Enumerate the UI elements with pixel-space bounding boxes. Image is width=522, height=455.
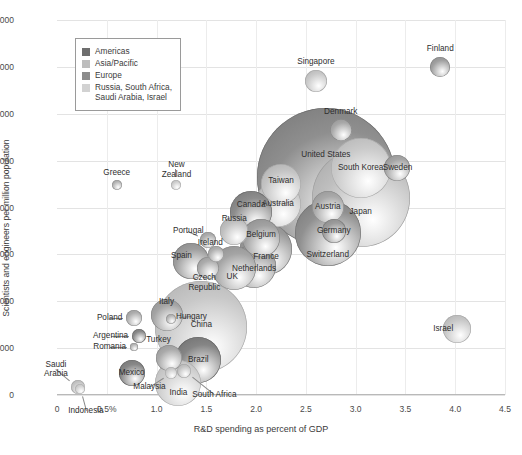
legend-label: Americas: [95, 46, 130, 57]
bubble-singapore[interactable]: [305, 70, 327, 92]
legend-swatch-icon: [82, 72, 90, 80]
label-leader-line: [110, 347, 127, 348]
bubble-chart: SingaporeFinlandDenmarkUnited StatesSout…: [0, 0, 522, 455]
legend-item-asia-pacific[interactable]: Asia/Pacific: [82, 58, 172, 69]
x-axis-title: R&D spending as percent of GDP: [0, 424, 522, 434]
legend-label: Europe: [95, 70, 122, 81]
x-tick-label: 3.0: [350, 404, 362, 414]
bubble-argentina[interactable]: [132, 329, 146, 343]
legend-swatch-icon: [82, 48, 90, 56]
bubble-taiwan[interactable]: [261, 164, 301, 204]
bubble-label-singapore: Singapore: [297, 57, 334, 67]
x-tick-label: 4.5: [499, 404, 511, 414]
bubble-hungary[interactable]: [166, 314, 176, 324]
y-tick-label: 7,000: [0, 62, 14, 72]
x-tick-label: 4.0: [449, 404, 461, 414]
bubble-romania[interactable]: [130, 343, 138, 351]
gridline-vertical: [505, 20, 506, 395]
x-tick-label: 1.5: [200, 404, 212, 414]
gridline-horizontal: [57, 20, 505, 21]
legend-swatch-icon: [82, 60, 90, 68]
legend-label: Asia/Pacific: [95, 58, 138, 69]
bubble-south-korea[interactable]: [331, 138, 391, 198]
bubble-austria[interactable]: [312, 191, 344, 223]
legend: AmericasAsia/PacificEuropeRussia, South …: [75, 38, 181, 111]
legend-item-russia-south-africa-saudi-arabia-israel[interactable]: Russia, South Africa, Saudi Arabia, Isra…: [82, 82, 172, 103]
bubble-russia[interactable]: [220, 217, 248, 245]
x-tick-label: 3.5: [400, 404, 412, 414]
x-tick-label: 0.5%: [97, 404, 116, 414]
bubble-south-africa[interactable]: [177, 364, 191, 378]
bubble-mexico[interactable]: [119, 360, 145, 386]
x-tick-label: 0: [55, 404, 60, 414]
x-tick-label: 2.5: [300, 404, 312, 414]
label-leader-line: [55, 369, 70, 381]
label-leader-line: [111, 336, 129, 337]
gridline-horizontal: [57, 395, 505, 396]
bubble-denmark[interactable]: [330, 119, 352, 141]
legend-item-americas[interactable]: Americas: [82, 46, 172, 57]
bubble-belgium[interactable]: [242, 219, 280, 257]
legend-swatch-icon: [82, 84, 90, 92]
x-tick-label: 1.0: [151, 404, 163, 414]
x-tick-label: 2.0: [250, 404, 262, 414]
gridline-horizontal: [57, 348, 505, 349]
bubble-israel[interactable]: [443, 315, 471, 343]
bubble-sweden[interactable]: [384, 155, 410, 181]
y-tick-label: 0: [0, 390, 14, 400]
x-axis-line: [57, 394, 505, 395]
y-tick-label: 8,000: [0, 15, 14, 25]
bubble-label-finland: Finland: [427, 44, 454, 54]
label-leader-line: [188, 231, 198, 236]
bubble-new-zealand[interactable]: [171, 180, 181, 190]
bubble-malaysia[interactable]: [165, 367, 177, 379]
legend-item-europe[interactable]: Europe: [82, 70, 172, 81]
bubble-germany[interactable]: [322, 219, 346, 243]
gridline-horizontal: [57, 301, 505, 302]
gridline-horizontal: [57, 114, 505, 115]
bubble-poland[interactable]: [126, 310, 142, 326]
label-leader-line: [82, 397, 87, 412]
bubble-indonesia[interactable]: [75, 384, 85, 394]
label-leader-line: [110, 318, 123, 319]
label-leader-line: [175, 169, 176, 177]
y-axis-title: Scientists and engineers per million pop…: [1, 108, 11, 348]
bubble-label-new-zealand: New Zealand: [162, 160, 192, 179]
legend-label: Russia, South Africa, Saudi Arabia, Isra…: [95, 82, 172, 103]
bubble-ireland[interactable]: [208, 246, 224, 262]
bubble-greece[interactable]: [112, 180, 122, 190]
bubble-finland[interactable]: [430, 57, 450, 77]
